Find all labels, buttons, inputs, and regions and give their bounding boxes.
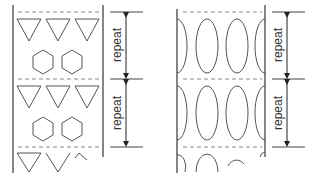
ellipse-icon (226, 86, 248, 140)
ellipse-icon (196, 154, 218, 172)
hexagon-row (33, 50, 82, 74)
ellipse-icon (177, 19, 187, 73)
ellipse-icon (177, 155, 186, 172)
ellipse-icon (255, 86, 265, 140)
repeat-label: repeat (271, 27, 285, 62)
triangle-row (17, 19, 99, 41)
triangle-icon (46, 86, 70, 108)
hexagon-row (33, 117, 82, 141)
left-pattern-panel: repeat repeat (13, 5, 143, 173)
diagram-canvas: repeat repeat (0, 0, 319, 183)
triangle-icon (17, 153, 41, 172)
right-pattern-panel: repeat repeat (177, 5, 305, 173)
ellipse-row (177, 86, 265, 140)
left-repeat-dimension: repeat repeat (110, 12, 143, 147)
triangle-icon (17, 86, 41, 108)
partial-ellipse-row (177, 152, 265, 172)
hexagon-icon (33, 117, 53, 141)
triangle-icon (75, 153, 87, 160)
hexagon-icon (62, 50, 82, 74)
repeat-label: repeat (271, 95, 285, 130)
hexagon-icon (62, 117, 82, 141)
triangle-icon (17, 19, 41, 41)
ellipse-icon (226, 19, 248, 73)
ellipse-icon (260, 152, 265, 157)
triangle-icon (75, 19, 99, 41)
right-repeat-dimension: repeat repeat (271, 12, 305, 147)
triangle-row (17, 86, 99, 108)
ellipse-icon (177, 86, 187, 140)
ellipse-row (177, 19, 265, 73)
partial-triangle-row (17, 153, 87, 172)
ellipse-icon (196, 86, 218, 140)
triangle-icon (46, 19, 70, 41)
ellipse-icon (228, 160, 244, 166)
triangle-icon (46, 153, 70, 172)
repeat-label: repeat (110, 95, 124, 130)
ellipse-icon (196, 19, 218, 73)
ellipse-icon (255, 19, 265, 73)
triangle-icon (75, 86, 99, 108)
hexagon-icon (33, 50, 53, 74)
repeat-label: repeat (110, 27, 124, 62)
